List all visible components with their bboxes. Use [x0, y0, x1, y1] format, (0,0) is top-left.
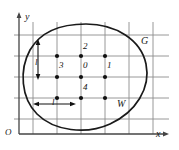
lattice-label-1: 1 — [107, 61, 112, 70]
horizontal-arrow-head-left — [33, 102, 39, 107]
lattice-label-0: 0 — [83, 61, 88, 70]
horizontal-arrow-head-right — [70, 102, 76, 107]
x-axis-label: x — [156, 129, 160, 139]
lattice-dot — [103, 54, 107, 58]
lattice-dot — [79, 96, 83, 100]
lattice-dot — [55, 96, 59, 100]
lattice-dot — [79, 54, 83, 58]
lattice-dot — [55, 54, 59, 58]
y-axis-arrowhead — [17, 12, 22, 18]
y-axis-label: y — [25, 12, 29, 22]
lattice-label-4: 4 — [83, 83, 88, 92]
lattice-dot — [55, 75, 59, 79]
lattice-label-2: 2 — [83, 42, 88, 51]
spacing-label-horizontal: l — [52, 98, 55, 107]
window-label-W: W — [117, 99, 125, 109]
diagram-canvas — [0, 0, 179, 150]
lattice-dot — [103, 96, 107, 100]
lattice-dot — [103, 75, 107, 79]
origin-label: O — [5, 128, 12, 137]
lattice-label-3: 3 — [59, 61, 64, 70]
lattice-dot — [79, 75, 83, 79]
region-label-G: G — [141, 36, 148, 46]
grid-vertical-lines — [33, 22, 153, 134]
axes — [19, 14, 166, 134]
x-axis-arrowhead — [163, 132, 169, 137]
spacing-label-vertical: l — [35, 58, 38, 67]
figure-container: y x O G W l l 0 1 2 3 4 — [0, 0, 179, 150]
